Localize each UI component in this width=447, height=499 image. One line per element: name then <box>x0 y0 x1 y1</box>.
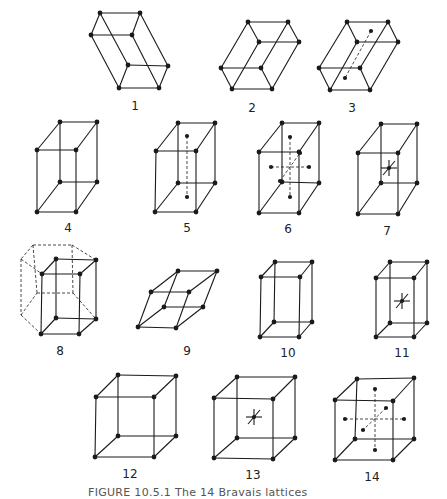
lattice-4 <box>35 120 100 215</box>
lattice-point <box>126 63 131 68</box>
lattice-label-1: 1 <box>131 100 139 112</box>
lattice-point <box>89 33 94 38</box>
lattice-point <box>212 396 217 401</box>
lattice-label-8: 8 <box>56 345 64 357</box>
lattice-point <box>271 457 276 462</box>
lattice-point <box>259 66 264 71</box>
lattice-label-12: 12 <box>122 468 137 480</box>
lattice-point <box>415 122 420 127</box>
lattice-point <box>93 455 98 460</box>
lattice-point <box>396 212 401 217</box>
lattice-point <box>356 151 361 156</box>
lattice-point <box>230 87 235 92</box>
lattice-point <box>270 87 275 92</box>
lattice-point <box>149 290 154 295</box>
lattice-point <box>162 305 167 310</box>
lattice-point <box>415 181 420 186</box>
lattice-point <box>40 272 45 277</box>
lattice-3 <box>317 20 401 93</box>
lattice-point <box>278 179 282 183</box>
lattice-point <box>94 258 99 263</box>
lattice-point <box>293 436 298 441</box>
lattice-point <box>39 332 44 337</box>
lattice-point <box>343 417 347 421</box>
lattice-point <box>361 428 365 432</box>
lattice-point <box>297 335 302 340</box>
lattice-point <box>412 376 417 381</box>
lattice-point <box>333 458 338 463</box>
lattice-point <box>273 260 278 265</box>
lattice-5 <box>153 121 218 215</box>
lattice-point <box>157 86 162 91</box>
lattice-point <box>98 11 103 16</box>
lattice-point <box>257 211 262 216</box>
lattice-point <box>388 260 393 265</box>
lattice-point <box>384 406 388 410</box>
lattice-point <box>138 11 143 16</box>
lattice-point <box>94 317 99 322</box>
lattice-point <box>387 166 391 170</box>
lattice-point <box>288 195 292 199</box>
lattice-point <box>257 40 262 45</box>
lattice-14 <box>333 376 417 463</box>
lattice-point <box>396 40 401 45</box>
lattice-point <box>310 260 315 265</box>
lattice-point <box>369 29 373 33</box>
lattice-point <box>396 151 401 156</box>
lattice-point <box>116 434 121 439</box>
lattice-point <box>288 135 292 139</box>
lattice-6 <box>257 121 322 216</box>
lattice-point <box>117 86 122 91</box>
lattice-point <box>78 272 83 277</box>
lattice-8 <box>21 245 98 336</box>
lattice-point <box>257 150 262 155</box>
lattice-point <box>35 210 40 215</box>
lattice-2 <box>219 20 302 92</box>
lattice-point <box>272 320 277 325</box>
lattice-point <box>317 121 322 126</box>
lattice-point <box>136 325 141 330</box>
lattice-11 <box>374 260 430 340</box>
lattice-point <box>374 335 379 340</box>
lattice-point <box>152 455 157 460</box>
lattice-point <box>95 120 100 125</box>
lattice-point <box>374 276 379 281</box>
lattice-point <box>379 122 384 127</box>
lattice-point <box>297 40 302 45</box>
lattice-point <box>74 210 79 215</box>
lattice-point <box>235 436 240 441</box>
lattice-point <box>298 275 303 280</box>
lattice-point <box>333 398 338 403</box>
lattice-point <box>215 269 220 274</box>
lattice-label-13: 13 <box>245 469 260 481</box>
lattice-point <box>368 88 373 93</box>
lattice-point <box>246 20 251 25</box>
lattice-point <box>252 415 256 419</box>
lattice-point <box>58 120 63 125</box>
lattice-point <box>412 276 417 281</box>
lattice-point <box>293 375 298 380</box>
lattice-point <box>153 210 158 215</box>
lattice-point <box>259 275 264 280</box>
lattice-point <box>176 181 181 186</box>
lattice-point <box>358 66 363 71</box>
lattice-point <box>391 458 396 463</box>
lattice-point <box>356 212 361 217</box>
lattice-point <box>258 335 263 340</box>
lattice-point <box>194 210 199 215</box>
lattice-label-2: 2 <box>248 102 256 114</box>
lattice-point <box>219 66 224 71</box>
lattice-label-11: 11 <box>394 347 409 359</box>
lattice-9 <box>136 269 220 331</box>
lattice-point <box>355 377 360 382</box>
lattice-point <box>425 321 430 326</box>
lattice-point <box>35 148 40 153</box>
lattice-point <box>402 417 406 421</box>
lattice-point <box>373 387 377 391</box>
lattice-point <box>130 33 135 38</box>
lattice-point <box>412 335 417 340</box>
lattice-point <box>174 434 179 439</box>
lattice-point <box>194 149 199 154</box>
